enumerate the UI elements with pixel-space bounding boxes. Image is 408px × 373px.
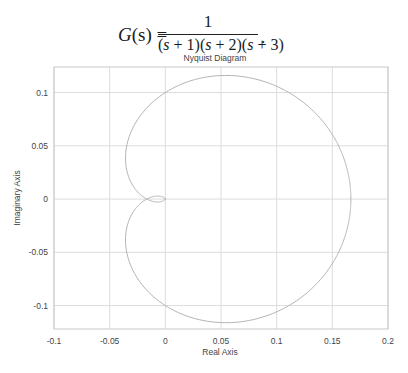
x-axis-label: Real Axis (202, 347, 237, 357)
y-tick-label: -0.1 (33, 301, 48, 311)
y-tick-label: 0 (43, 194, 48, 204)
y-tick-label: -0.05 (29, 247, 49, 257)
y-tick-labels: -0.1-0.0500.050.1 (29, 88, 49, 311)
y-tick-label: 0.05 (31, 141, 48, 151)
y-tick-label: 0.1 (36, 88, 48, 98)
nyquist-chart: Nyquist Diagram -0.1-0.0500.050.10.150.2… (0, 0, 408, 373)
x-tick-label: 0.2 (382, 336, 394, 346)
chart-title: Nyquist Diagram (184, 53, 247, 63)
x-tick-label: -0.05 (100, 336, 120, 346)
grid-lines (54, 67, 388, 329)
x-tick-labels: -0.1-0.0500.050.10.150.2 (47, 336, 395, 346)
x-tick-label: 0.15 (324, 336, 341, 346)
x-tick-label: -0.1 (47, 336, 62, 346)
x-tick-label: 0 (163, 336, 168, 346)
x-tick-label: 0.1 (271, 336, 283, 346)
y-axis-label: Imaginary Axis (12, 170, 22, 225)
x-tick-label: 0.05 (213, 336, 230, 346)
